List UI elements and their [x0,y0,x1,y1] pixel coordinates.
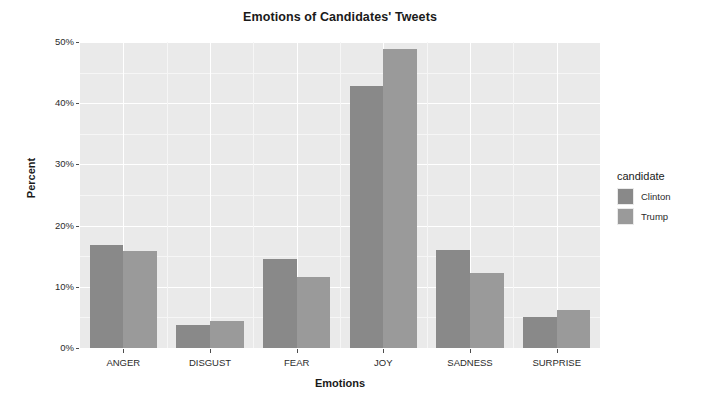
x-axis-title: Emotions [80,377,600,389]
gridline-major-x [557,42,558,348]
legend-label: Clinton [641,191,671,202]
legend-key [617,188,634,205]
gridline-minor-x [427,42,428,348]
gridline-minor-x [513,42,514,348]
gridline-minor-x [167,42,168,348]
legend-item-trump: Trump [617,208,671,225]
bar-joy-trump [383,49,417,348]
y-axis-tick-label: 50% [55,37,74,47]
bar-sadness-clinton [436,250,470,348]
y-axis-tick-label: 20% [55,221,74,231]
x-axis-tick-mark [557,349,558,353]
x-axis-tick-label-sadness: SADNESS [447,357,492,368]
x-axis-tick-mark [470,349,471,353]
bar-surprise-trump [557,310,591,348]
legend: candidate ClintonTrump [617,170,671,228]
legend-swatch-clinton [618,189,633,204]
bar-sadness-trump [470,273,504,348]
legend-key [617,208,634,225]
y-axis-tick-labels: 0%10%20%30%40%50% [34,0,74,412]
y-axis-tick-label: 30% [55,159,74,169]
y-axis-tick-label: 40% [55,98,74,108]
x-axis-tick-label-disgust: DISGUST [189,357,231,368]
y-axis-tick-mark [76,164,79,165]
x-axis-tick-mark [210,349,211,353]
bar-fear-clinton [263,259,297,348]
y-axis-tick-mark [76,226,79,227]
x-axis-tick-mark [297,349,298,353]
page-title: Emotions of Candidates' Tweets [80,10,600,24]
bar-anger-trump [123,251,157,348]
y-axis-title: Percent [25,138,37,218]
x-axis-tick-mark [383,349,384,353]
x-axis-tick-label-surprise: SURPRISE [532,357,581,368]
bar-fear-trump [297,277,331,348]
bar-disgust-clinton [176,325,210,348]
chart-figure: Emotions of Candidates' Tweets 0%10%20%3… [0,0,711,412]
legend-swatch-trump [618,209,633,224]
legend-items: ClintonTrump [617,188,671,225]
bar-anger-clinton [90,245,124,348]
legend-item-clinton: Clinton [617,188,671,205]
y-axis-tick-mark [76,348,79,349]
plot-panel [80,42,600,348]
bar-surprise-clinton [523,317,557,348]
legend-title: candidate [617,170,671,182]
gridline-major-x [210,42,211,348]
bar-joy-clinton [350,86,384,348]
x-axis-tick-label-joy: JOY [374,357,392,368]
y-axis-tick-mark [76,287,79,288]
y-axis-tick-label: 0% [60,343,74,353]
y-axis-tick-mark [76,103,79,104]
x-axis-tick-label-fear: FEAR [284,357,309,368]
legend-label: Trump [641,211,668,222]
x-axis-tick-label-anger: ANGER [106,357,140,368]
x-axis-tick-mark [123,349,124,353]
bar-disgust-trump [210,321,244,348]
gridline-minor-x [340,42,341,348]
y-axis-tick-label: 10% [55,282,74,292]
gridline-minor-x [253,42,254,348]
y-axis-tick-mark [76,42,79,43]
